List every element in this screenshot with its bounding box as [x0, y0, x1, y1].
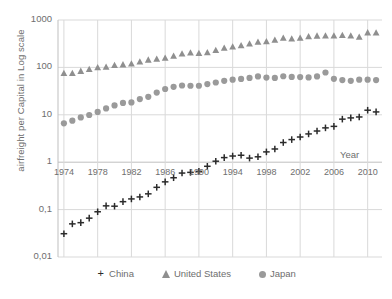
x-tick-label: 1974	[47, 167, 81, 177]
airfreight-per-capita-log-chart: airfreight per Capital in Log scale 1000…	[0, 0, 392, 299]
chart-legend: + China United States Japan	[0, 268, 392, 279]
y-tick-label: 0,01	[6, 250, 52, 261]
series-japan	[61, 69, 379, 126]
x-tick-label: 1978	[81, 167, 115, 177]
x-tick-label: 2010	[351, 167, 385, 177]
x-tick-label: 1982	[114, 167, 148, 177]
x-tick-label: 1998	[249, 167, 283, 177]
legend-item-china[interactable]: + China	[96, 268, 134, 279]
series-united-states	[61, 29, 380, 76]
y-tick-label: 1	[6, 155, 52, 166]
x-tick-label: 2002	[283, 167, 317, 177]
x-tick-label: 1986	[148, 167, 182, 177]
plot-area	[0, 0, 392, 299]
x-tick-label: 1990	[182, 167, 216, 177]
y-tick-label: 10	[6, 108, 52, 119]
y-tick-label: 1000	[6, 13, 52, 24]
legend-item-united-states[interactable]: United States	[162, 268, 231, 279]
legend-label-china: China	[109, 268, 134, 279]
triangle-marker-icon	[162, 270, 170, 278]
x-tick-label: 2006	[317, 167, 351, 177]
legend-label-united-states: United States	[174, 268, 231, 279]
x-tick-label: 1994	[216, 167, 250, 177]
x-axis-title: Year	[340, 149, 359, 160]
circle-marker-icon	[259, 271, 266, 278]
legend-label-japan: Japan	[270, 268, 296, 279]
y-tick-label: 0,1	[6, 203, 52, 214]
plus-marker-icon: +	[96, 269, 105, 278]
legend-item-japan[interactable]: Japan	[259, 268, 296, 279]
y-tick-label: 100	[6, 60, 52, 71]
